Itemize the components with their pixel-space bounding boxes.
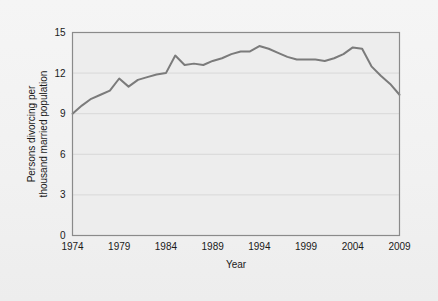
x-tick-label-2009: 2009 (388, 241, 411, 252)
y-axis-title-line-1: Persons divorcing per (26, 85, 37, 182)
y-tick-label-6: 6 (60, 149, 66, 160)
y-tick-label-0: 0 (60, 230, 66, 241)
x-tick-label-2004: 2004 (342, 241, 365, 252)
x-axis-tick-labels: 19741979198419891994199920042009 (61, 241, 411, 252)
chart-figure: 03691215 1974197919841989199419992004200… (0, 0, 438, 301)
y-tick-label-3: 3 (60, 189, 66, 200)
line-chart: 03691215 1974197919841989199419992004200… (0, 0, 438, 301)
y-axis-title-line-2: thousand married population (38, 71, 49, 198)
x-tick-label-1999: 1999 (295, 241, 318, 252)
y-tick-label-9: 9 (60, 108, 66, 119)
x-axis-title-text: Year (226, 259, 247, 270)
x-tick-label-1979: 1979 (108, 241, 131, 252)
y-tick-label-15: 15 (54, 27, 66, 38)
x-tick-label-1994: 1994 (248, 241, 271, 252)
plot-area-background (73, 33, 400, 236)
x-tick-label-1974: 1974 (61, 241, 84, 252)
plot-background (73, 33, 400, 236)
y-axis-tick-labels: 03691215 (54, 27, 66, 241)
x-axis-title: Year (226, 259, 247, 270)
y-axis-title: Persons divorcing perthousand married po… (26, 71, 49, 198)
x-tick-label-1989: 1989 (202, 241, 225, 252)
x-tick-label-1984: 1984 (155, 241, 178, 252)
y-tick-label-12: 12 (54, 68, 66, 79)
